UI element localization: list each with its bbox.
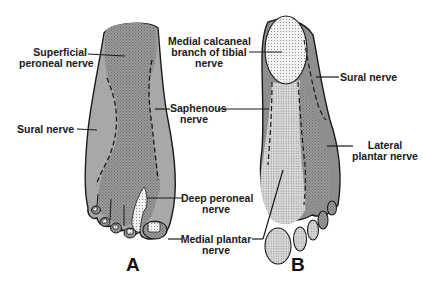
label-sural-nerve-a: Sural nerve bbox=[17, 124, 74, 135]
foot-b bbox=[260, 16, 340, 264]
label-sural-nerve-b: Sural nerve bbox=[340, 72, 397, 83]
label-lateral-plantar-nerve: Lateral plantar nerve bbox=[352, 140, 418, 162]
panel-letter-a: A bbox=[126, 254, 140, 276]
foot-a bbox=[85, 23, 175, 239]
label-medial-calcaneal-branch: Medial calcaneal branch of tibial nerve bbox=[168, 36, 250, 69]
panel-letter-b: B bbox=[291, 254, 305, 276]
medial-calcaneal-area bbox=[265, 16, 307, 84]
label-deep-peroneal-nerve: Deep peroneal nerve bbox=[181, 193, 251, 215]
label-superficial-peroneal-nerve: Superficial peroneal nerve bbox=[19, 47, 87, 69]
label-saphenous-nerve: Saphenous nerve bbox=[170, 103, 218, 125]
label-medial-plantar-nerve: Medial plantar nerve bbox=[180, 234, 252, 256]
